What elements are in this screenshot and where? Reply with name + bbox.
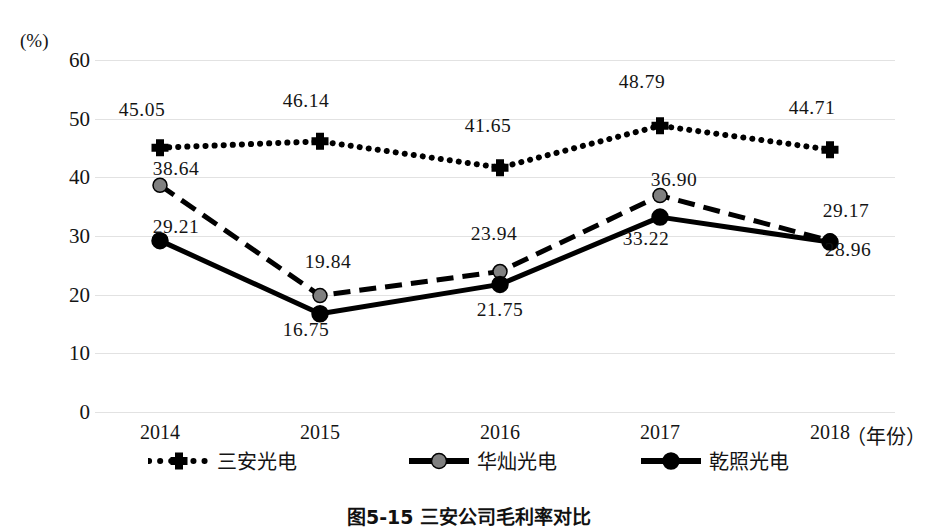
y-axis-tick: 10 — [28, 341, 90, 366]
legend-swatch-icon — [640, 451, 702, 471]
data-point-label: 29.21 — [153, 216, 199, 238]
x-axis-tick: 2017 — [640, 421, 680, 444]
data-marker-circle — [313, 289, 327, 303]
y-axis-tick: 40 — [28, 165, 90, 190]
y-axis-tick: 50 — [28, 106, 90, 131]
data-marker-cross — [152, 139, 169, 156]
legend-item-1[interactable]: 三安光电 — [148, 446, 297, 475]
x-axis-tick: 2016 — [480, 421, 520, 444]
legend-item-3[interactable]: 乾照光电 — [640, 446, 789, 475]
data-point-label: 29.17 — [823, 200, 869, 222]
data-point-label: 41.65 — [465, 115, 511, 137]
data-marker-cross — [492, 159, 509, 176]
data-marker-circle — [653, 189, 667, 203]
y-axis-tick: 60 — [28, 48, 90, 73]
data-marker-cross — [652, 117, 669, 134]
legend-item-2[interactable]: 华灿光电 — [408, 446, 557, 475]
data-point-label: 36.90 — [651, 169, 697, 191]
legend-label: 华灿光电 — [477, 446, 557, 475]
data-point-label: 38.64 — [153, 158, 199, 180]
x-axis-tick: 2014 — [140, 421, 180, 444]
data-point-label: 16.75 — [283, 319, 329, 341]
legend-swatch-icon — [408, 451, 470, 471]
y-axis: 6050403020100 — [28, 0, 90, 516]
data-marker-circle — [153, 178, 167, 192]
y-axis-tick: 0 — [28, 400, 90, 425]
data-point-label: 28.96 — [825, 239, 871, 261]
legend-label: 三安光电 — [217, 446, 297, 475]
y-axis-tick: 30 — [28, 224, 90, 249]
data-marker-circle — [653, 210, 668, 225]
data-marker-circle — [493, 277, 508, 292]
data-point-label: 45.05 — [119, 99, 165, 121]
data-point-label: 21.75 — [477, 299, 523, 321]
legend-swatch-icon — [148, 451, 210, 471]
figure-caption: 图5-15 三安公司毛利率对比 — [0, 502, 938, 529]
data-point-label: 19.84 — [305, 251, 351, 273]
chart-legend: 三安光电华灿光电乾照光电 — [0, 446, 938, 478]
x-axis-tick: 2015 — [300, 421, 340, 444]
data-marker-cross — [822, 141, 839, 158]
data-point-label: 33.22 — [623, 228, 669, 250]
data-point-label: 48.79 — [619, 71, 665, 93]
y-axis-tick: 20 — [28, 282, 90, 307]
data-marker-cross — [312, 133, 329, 150]
x-axis-tick: 2018 — [810, 421, 850, 444]
data-point-label: 44.71 — [789, 97, 835, 119]
legend-label: 乾照光电 — [709, 446, 789, 475]
data-point-label: 23.94 — [471, 223, 517, 245]
data-point-label: 46.14 — [283, 90, 329, 112]
